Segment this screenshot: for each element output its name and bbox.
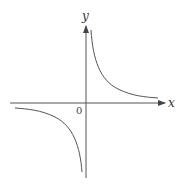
x-axis-label: x (168, 96, 175, 110)
hyperbola-graph: x y 0 (0, 0, 185, 187)
y-axis-label: y (81, 9, 89, 23)
curve-branch-quadrant-1 (91, 30, 158, 98)
curve-branch-quadrant-3 (15, 108, 82, 172)
origin-label: 0 (76, 105, 82, 116)
